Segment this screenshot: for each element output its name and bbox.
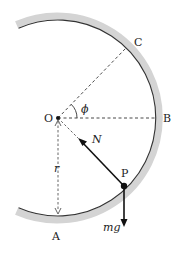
line-OP — [58, 118, 78, 138]
label-A: A — [51, 230, 61, 243]
label-O: O — [44, 112, 53, 125]
normal-force-arrow — [81, 141, 124, 186]
label-P: P — [121, 167, 129, 180]
label-B: B — [163, 112, 171, 125]
particle-P — [121, 183, 127, 189]
line-OC — [58, 48, 126, 118]
center-point-O — [56, 116, 60, 120]
label-mg: mg — [103, 221, 120, 234]
label-phi: ϕ — [81, 103, 89, 116]
label-r: r — [54, 162, 60, 175]
diagram-canvas: O B C A P N r mg ϕ — [0, 0, 182, 260]
weight-arrowhead-icon — [121, 219, 128, 227]
label-C: C — [134, 36, 142, 49]
label-N: N — [91, 133, 102, 146]
angle-phi-arc — [71, 104, 77, 118]
